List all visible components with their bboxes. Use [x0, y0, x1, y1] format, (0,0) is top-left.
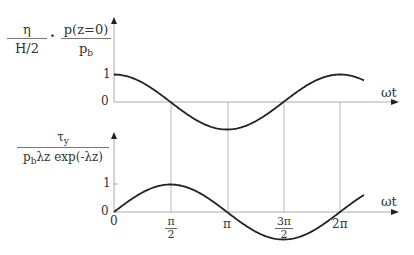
tau-denominator: pbλz exp(-λz)	[17, 147, 109, 166]
xtick-pi-over-2-num: π	[165, 216, 177, 228]
tau-sub: y	[64, 136, 69, 146]
lower-ylabel-fraction: τy pbλz exp(-λz)	[17, 130, 109, 166]
upper-xlabel: ωt	[381, 85, 397, 100]
eta-denominator: H/2	[7, 38, 47, 56]
lower-xlabel: ωt	[381, 194, 397, 209]
upper-ylabel-eta-fraction: η H/2	[7, 22, 47, 56]
xtick-3pi-over-2: 3π 2	[275, 216, 293, 241]
xtick-pi: π	[223, 217, 231, 231]
tau: τ	[57, 130, 64, 144]
ylabel-separator-dot: ·	[50, 28, 55, 44]
pb-sub: b	[87, 48, 93, 58]
guide-lines	[171, 102, 340, 212]
xtick-0: 0	[110, 214, 118, 228]
den-p: p	[23, 150, 31, 164]
lower-axes	[114, 137, 393, 212]
xtick-2pi: 2π	[332, 217, 348, 231]
upper-ylabel-pressure-fraction: p(z=0) pb	[61, 22, 111, 58]
eta-numerator: η	[7, 22, 47, 38]
xtick-pi-over-2-den: 2	[165, 228, 177, 241]
pressure-denominator: pb	[61, 38, 111, 58]
lower-y-arrow-icon	[111, 132, 117, 139]
upper-ytick-0: 0	[101, 94, 109, 108]
xtick-3pi-over-2-den: 2	[275, 228, 293, 241]
upper-axes	[114, 22, 393, 102]
tau-numerator: τy	[17, 130, 109, 147]
upper-ytick-1: 1	[103, 67, 111, 81]
den-rest: λz exp(-λz)	[36, 150, 103, 164]
lower-ytick-1: 1	[103, 176, 111, 190]
lower-ytick-0: 0	[101, 204, 109, 218]
xtick-3pi-over-2-num: 3π	[275, 216, 293, 228]
lower-x-arrow-icon	[391, 209, 399, 215]
xtick-pi-over-2: π 2	[165, 216, 177, 241]
pressure-numerator: p(z=0)	[61, 22, 111, 38]
upper-y-arrow-icon	[111, 17, 117, 24]
